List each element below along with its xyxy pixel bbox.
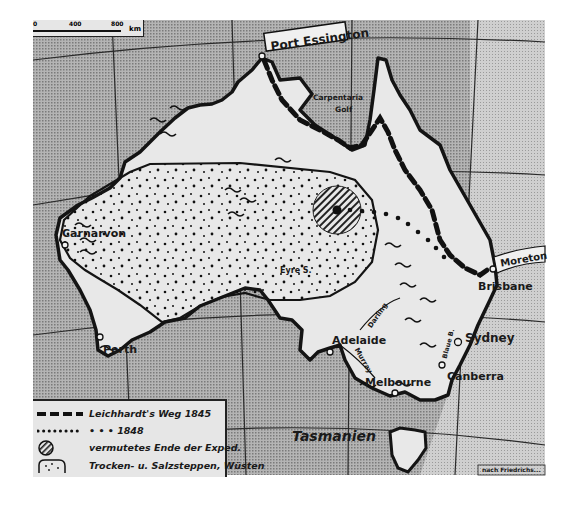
hatched-circle-icon	[37, 440, 83, 456]
dotted-route-icon	[37, 425, 83, 437]
scale-tick-400: 400	[69, 20, 82, 27]
dashed-route-icon	[37, 408, 83, 420]
carpentaria-gulf-label-2: Golf	[335, 105, 353, 114]
scale-tick-0: 0	[33, 20, 37, 27]
melbourne-marker	[392, 390, 398, 396]
legend-label-1848: • • • 1848	[89, 425, 144, 436]
scale-line	[33, 30, 121, 32]
legend-label-desert: Trocken- u. Salzsteppen, Wüsten	[89, 460, 264, 471]
carnarvon-marker	[62, 242, 68, 248]
perth-label: Perth	[103, 343, 137, 356]
legend-label-1845: Leichhardt's Weg 1845	[89, 408, 211, 419]
carpentaria-gulf-label: Carpentaria	[313, 93, 363, 102]
legend-item-1845: Leichhardt's Weg 1845	[37, 405, 211, 422]
brisbane-marker	[490, 266, 496, 272]
melbourne-label: Melbourne	[365, 376, 431, 389]
sydney-marker	[455, 339, 462, 346]
footer-credit: nach Friedrichs...	[482, 466, 541, 473]
carnarvon-label: Carnarvon	[62, 227, 126, 240]
scale-tick-800: 800	[111, 20, 124, 27]
legend-item-1848: • • • 1848	[37, 422, 144, 439]
adelaide-marker	[327, 349, 333, 355]
legend-item-expedition-end: vermutetes Ende der Exped.	[37, 439, 241, 456]
map-legend: Leichhardt's Weg 1845 • • • 1848 vermute…	[33, 399, 227, 477]
adelaide-label: Adelaide	[332, 334, 386, 347]
expedition-end-dot	[333, 206, 342, 215]
port-essington-marker	[259, 53, 265, 59]
legend-item-desert: Trocken- u. Salzsteppen, Wüsten	[37, 457, 264, 474]
dotted-area-icon	[37, 460, 83, 472]
scale-unit: km	[129, 25, 141, 33]
sydney-label: Sydney	[465, 331, 515, 345]
eyre-lake-label: Eyre S.	[280, 266, 312, 275]
legend-label-expedition-end: vermutetes Ende der Exped.	[89, 442, 241, 453]
brisbane-label: Brisbane	[478, 280, 533, 293]
perth-marker	[97, 334, 103, 340]
scale-bar: 0 400 800 km	[33, 20, 144, 37]
canberra-marker	[439, 362, 445, 368]
canberra-label: Canberra	[447, 370, 504, 383]
tasmania-label: Tasmanien	[292, 428, 376, 444]
